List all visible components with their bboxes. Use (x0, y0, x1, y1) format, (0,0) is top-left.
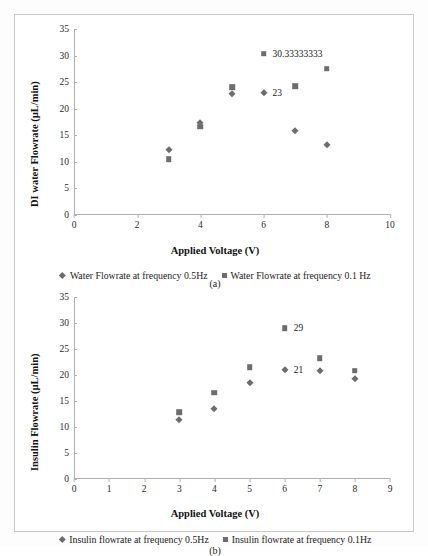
x-tick-label: 0 (72, 484, 77, 494)
chart-b-y-axis (74, 297, 75, 479)
chart-panel-b: Insulin Flowrate (µL/min) 05101520253035… (15, 287, 415, 531)
x-tick-label: 10 (385, 220, 395, 230)
chart-b-plot-area: 0510152025303501234567892921 (74, 297, 390, 479)
y-tick-label: 20 (47, 104, 74, 114)
y-tick-label: 30 (47, 51, 74, 61)
chart-a-plot-area: 05101520253035024681030.3333333323 (74, 29, 390, 215)
y-tick-label: 0 (47, 210, 74, 220)
x-tick-label: 7 (317, 484, 322, 494)
data-point-square (324, 66, 330, 72)
data-point-annotation: 21 (294, 365, 304, 375)
x-tick-label: 3 (177, 484, 182, 494)
y-tick-label: 5 (47, 183, 74, 193)
y-tick-label: 20 (47, 370, 74, 380)
x-tick-label: 8 (324, 220, 329, 230)
data-point-annotation: 30.33333333 (273, 49, 323, 59)
data-point-square (352, 368, 358, 374)
x-tick-label: 8 (353, 484, 358, 494)
data-point-diamond (291, 127, 299, 135)
chart-b-legend-item-0: Insulin flowrate at frequency 0.5Hz (59, 534, 209, 545)
data-point-diamond (323, 141, 331, 149)
data-point-square (229, 84, 235, 90)
x-tick-label: 6 (261, 220, 266, 230)
data-point-diamond (260, 89, 268, 97)
x-tick-label: 2 (135, 220, 140, 230)
chart-a-x-axis (74, 214, 390, 215)
data-point-square (212, 390, 218, 396)
data-point-diamond (176, 416, 184, 424)
figure-frame: DI water Flowrate (µL/min) 0510152025303… (14, 14, 414, 532)
y-tick-label: 10 (47, 157, 74, 167)
data-point-square (177, 410, 183, 416)
x-tick-label: 4 (198, 220, 203, 230)
x-tick-label: 0 (72, 220, 77, 230)
y-tick-label: 30 (47, 318, 74, 328)
data-point-diamond (211, 406, 219, 414)
y-tick-label: 10 (47, 422, 74, 432)
data-point-annotation: 29 (294, 323, 304, 333)
chart-b-legend-label-0: Insulin flowrate at frequency 0.5Hz (69, 534, 209, 545)
y-tick-label: 25 (47, 344, 74, 354)
chart-b-x-axis-label: Applied Voltage (V) (15, 508, 415, 519)
chart-b-legend-label-1: Insulin flowrate at frequency 0.1Hz (232, 534, 372, 545)
data-point-square (198, 124, 204, 130)
x-tick-label: 1 (107, 484, 112, 494)
chart-b-y-axis-label: Insulin Flowrate (µL/min) (29, 354, 40, 471)
data-point-diamond (228, 91, 236, 99)
y-tick-label: 35 (47, 24, 74, 34)
data-point-diamond (165, 146, 173, 154)
data-point-square (292, 84, 298, 90)
x-tick-label: 2 (142, 484, 147, 494)
x-tick-label: 5 (247, 484, 252, 494)
data-point-square (282, 325, 288, 331)
y-tick-label: 35 (47, 292, 74, 302)
chart-b-x-axis (74, 478, 390, 479)
x-tick-label: 6 (282, 484, 287, 494)
data-point-diamond (351, 375, 359, 383)
data-point-annotation: 23 (273, 88, 283, 98)
x-tick-label: 9 (388, 484, 393, 494)
chart-b-legend: Insulin flowrate at frequency 0.5Hz Insu… (15, 534, 415, 545)
chart-a-y-axis-label: DI water Flowrate (µL/min) (29, 81, 40, 207)
y-tick-label: 5 (47, 448, 74, 458)
x-tick-label: 4 (212, 484, 217, 494)
data-point-square (317, 356, 323, 362)
y-tick-label: 15 (47, 396, 74, 406)
data-point-square (166, 156, 172, 162)
data-point-diamond (316, 368, 324, 376)
data-point-diamond (281, 366, 289, 374)
data-point-diamond (246, 379, 254, 387)
square-marker-icon (223, 537, 228, 542)
data-point-square (261, 51, 267, 57)
chart-panel-a: DI water Flowrate (µL/min) 0510152025303… (15, 17, 415, 285)
chart-b-legend-item-1: Insulin flowrate at frequency 0.1Hz (223, 534, 372, 545)
y-tick-label: 25 (47, 77, 74, 87)
data-point-square (247, 364, 253, 370)
chart-b-caption: (b) (15, 545, 415, 556)
diamond-marker-icon (59, 536, 65, 542)
y-tick-label: 0 (47, 474, 74, 484)
chart-a-y-axis (74, 29, 75, 215)
chart-a-x-axis-label: Applied Voltage (V) (15, 245, 415, 256)
y-tick-label: 15 (47, 130, 74, 140)
